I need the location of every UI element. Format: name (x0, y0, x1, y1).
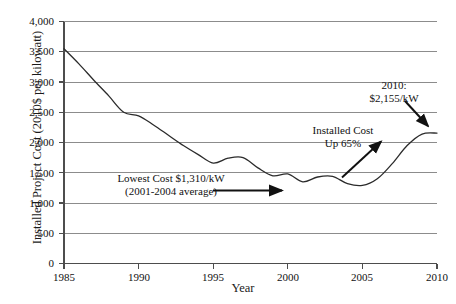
chart-plot-area (0, 0, 456, 304)
x-tick-label-1990: 1990 (117, 272, 161, 283)
annotation-lowest-cost: Lowest Cost $1,310/kW (2001-2004 average… (96, 172, 246, 198)
chart-figure: 4,000 3,500 3,000 2,500 2,000 1,500 1,00… (0, 0, 456, 304)
annotation-cost-2010: 2010: $2,155/kW (352, 79, 436, 105)
x-tick-marks (64, 264, 437, 269)
x-tick-label-2005: 2005 (340, 272, 384, 283)
x-axis-title: Year (203, 281, 283, 296)
annotation-installed-cost-up: Installed Cost Up 65% (295, 124, 391, 150)
annotation-installed-cost-line1: Installed Cost (295, 124, 391, 137)
annotation-lowest-cost-line2: (2001-2004 average) (96, 185, 246, 198)
data-series-line (64, 49, 437, 186)
annotation-installed-cost-line2: Up 65% (295, 137, 391, 150)
annotation-cost-2010-line1: 2010: (352, 79, 436, 92)
x-tick-label-2010: 2010 (415, 272, 456, 283)
y-tick-marks (59, 22, 64, 264)
annotation-cost-2010-line2: $2,155/kW (352, 92, 436, 105)
y-axis-title: Installed Project Cost (2010$ per kilowa… (30, 13, 45, 263)
x-tick-label-1985: 1985 (42, 272, 86, 283)
annotation-lowest-cost-line1: Lowest Cost $1,310/kW (96, 172, 246, 185)
